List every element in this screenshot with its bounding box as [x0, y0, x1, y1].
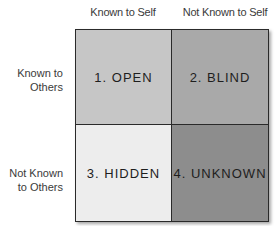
- quadrant-label: 2. BLIND: [190, 70, 251, 85]
- column-label-known-to-self: Known to Self: [85, 6, 161, 18]
- johari-window-grid: 1. OPEN 2. BLIND 3. HIDDEN 4. UNKNOWN: [75, 29, 269, 222]
- row-label-line: Not Known: [0, 166, 63, 180]
- quadrant-hidden: 3. HIDDEN: [76, 125, 172, 221]
- quadrant-label: 4. UNKNOWN: [173, 166, 266, 181]
- quadrant-open: 1. OPEN: [76, 30, 172, 125]
- column-label-not-known-to-self: Not Known to Self: [172, 6, 278, 18]
- quadrant-blind: 2. BLIND: [172, 30, 268, 125]
- row-label-known-to-others: Known to Others: [0, 66, 63, 94]
- row-label-line: to Others: [0, 180, 63, 194]
- row-label-line: Others: [0, 80, 63, 94]
- quadrant-label: 1. OPEN: [94, 70, 152, 85]
- row-label-not-known-to-others: Not Known to Others: [0, 166, 63, 194]
- quadrant-label: 3. HIDDEN: [87, 166, 160, 181]
- quadrant-unknown: 4. UNKNOWN: [172, 125, 268, 221]
- row-label-line: Known to: [0, 66, 63, 80]
